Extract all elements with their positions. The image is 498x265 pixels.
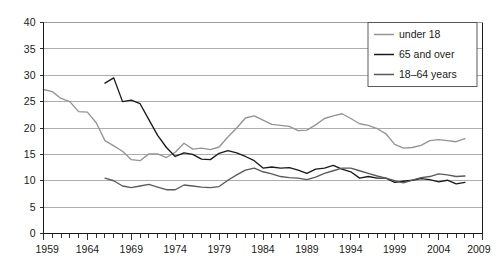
y-tick-label-40: 40 <box>24 16 36 28</box>
series-line-0 <box>44 89 465 160</box>
y-tick-label-15: 15 <box>24 148 36 160</box>
x-tick-label-2009: 2009 <box>467 243 491 255</box>
x-tick-label-1969: 1969 <box>120 243 144 255</box>
x-tick-label-1959: 1959 <box>36 243 60 255</box>
y-tick-label-35: 35 <box>24 43 36 55</box>
legend-label-0: under 18 <box>399 28 441 40</box>
x-tick-label-1979: 1979 <box>207 243 231 255</box>
data-series-group <box>44 78 465 190</box>
x-tick-label-2004: 2004 <box>427 243 451 255</box>
y-tick-label-0: 0 <box>30 227 36 239</box>
x-tick-label-1974: 1974 <box>164 243 188 255</box>
series-line-1 <box>105 78 465 184</box>
x-tick-label-1989: 1989 <box>295 243 319 255</box>
legend-label-1: 65 and over <box>399 48 455 60</box>
x-tick-label-1999: 1999 <box>383 243 407 255</box>
y-tick-label-30: 30 <box>24 69 36 81</box>
x-tick-label-1964: 1964 <box>76 243 100 255</box>
y-tick-label-20: 20 <box>24 122 36 134</box>
series-line-2 <box>105 168 465 190</box>
y-axis-tick-labels: 0510152025303540 <box>24 16 36 239</box>
x-axis-tick-labels: 1959196419691974197919841989199419992004… <box>36 243 491 255</box>
y-tick-label-10: 10 <box>24 174 36 186</box>
x-tick-label-1994: 1994 <box>339 243 363 255</box>
x-tick-label-1984: 1984 <box>251 243 275 255</box>
y-tick-label-25: 25 <box>24 95 36 107</box>
chart-legend: under 1865 and over18–64 years <box>368 23 477 87</box>
poverty-rate-line-chart: 0510152025303540 19591964196919741979198… <box>0 0 498 265</box>
chart-canvas: 0510152025303540 19591964196919741979198… <box>0 0 498 265</box>
legend-label-2: 18–64 years <box>399 68 457 80</box>
y-tick-label-5: 5 <box>30 201 36 213</box>
